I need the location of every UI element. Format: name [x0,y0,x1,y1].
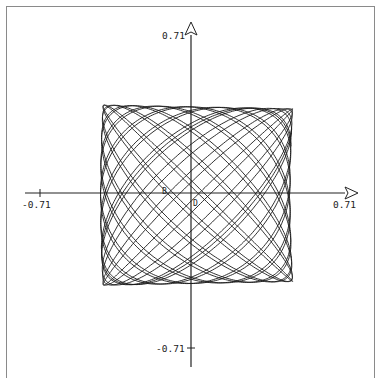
x-axis-arrow-icon [345,187,358,199]
y-tick-label-pos: 0.71 [162,30,185,41]
y-tick-label-neg: -0.71 [156,343,185,354]
point-label-d: D [193,199,198,208]
point-label-b: B [162,187,167,196]
trajectory-curve [101,105,293,285]
y-axis-arrow-icon [185,22,197,35]
x-tick-label-pos: 0.71 [333,199,356,210]
x-tick-label-neg: -0.71 [22,199,51,210]
